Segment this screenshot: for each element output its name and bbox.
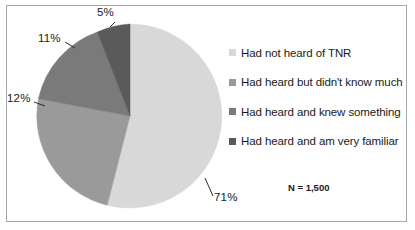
slice-label-71-percent: 71% [214, 191, 238, 203]
legend-item-had-not-heard-of-tnr[interactable]: Had not heard of TNR [229, 38, 407, 68]
legend-item-had-heard-and-knew-something[interactable]: Had heard and knew something [229, 97, 407, 127]
sample-size-annotation: N = 1,500 [288, 182, 329, 193]
legend-swatch-icon [229, 138, 236, 145]
legend-swatch-icon [229, 108, 236, 115]
legend-swatch-icon [229, 79, 236, 86]
legend-item-label: Had heard but didn't know much [241, 76, 403, 88]
legend-item-label: Had not heard of TNR [241, 47, 351, 59]
leader-line-71 [205, 178, 213, 196]
legend-item-label: Had heard and am very familiar [241, 135, 398, 147]
legend-item-label: Had heard and knew something [241, 106, 401, 118]
legend-item-had-heard-and-am-very-familiar[interactable]: Had heard and am very familiar [229, 127, 407, 157]
plot-area: 5% 11% 12% 71% Had not heard of TNR Had … [0, 0, 415, 230]
legend-item-had-heard-but-didnt-know-much[interactable]: Had heard but didn't know much [229, 68, 407, 98]
slice-label-5-percent: 5% [97, 6, 114, 18]
legend: Had not heard of TNR Had heard but didn'… [229, 38, 407, 156]
legend-swatch-icon [229, 49, 236, 56]
pie-chart-figure: 5% 11% 12% 71% Had not heard of TNR Had … [0, 0, 415, 230]
slice-label-11-percent: 11% [38, 32, 61, 44]
slice-label-12-percent: 12% [7, 92, 31, 104]
